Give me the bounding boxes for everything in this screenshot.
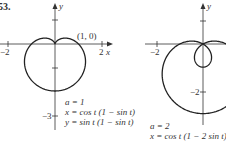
right-y-tick-neg: −2: [190, 87, 200, 97]
right-caption-x: x = cos t (1 − 2 sin t): [150, 131, 226, 141]
left-x-tick-pos: 2: [99, 47, 104, 57]
right-x-tick-neg: −2: [150, 47, 160, 57]
left-x-axis-label: x: [106, 47, 110, 57]
left-x-tick-neg: −2: [0, 47, 10, 57]
left-y-arrow-icon: [53, 3, 58, 9]
left-y-axis: [52, 8, 58, 130]
right-caption-a: a = 2: [150, 121, 170, 131]
left-caption-y: y = sin t (1 − sin t): [65, 117, 133, 127]
left-y-tick-neg: −3: [42, 111, 52, 121]
right-curve: [162, 41, 226, 114]
right-y-arrow-icon: [201, 3, 206, 9]
figure: 53. y (1, 0) −2 2 x −3 a = 1 x = cos t (…: [0, 0, 226, 144]
problem-number: 53.: [0, 2, 11, 12]
left-point-label: (1, 0): [77, 31, 97, 41]
left-y-axis-label: y: [59, 1, 63, 11]
left-x-arrow-icon: [107, 42, 113, 47]
left-caption-x: x = cos t (1 − sin t): [65, 107, 135, 117]
right-y-axis-label: y: [207, 1, 211, 11]
left-caption-a: a = 1: [65, 97, 85, 107]
